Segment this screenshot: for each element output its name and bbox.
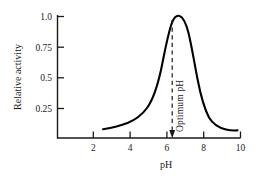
x-tick-label-4: 4 <box>128 143 133 153</box>
relative-activity-vs-ph-chart: 1.0 0.75 0.5 0.25 2 4 6 8 10 pH Relative… <box>0 0 264 178</box>
x-tick-label-10: 10 <box>236 143 246 153</box>
x-tick-label-2: 2 <box>91 143 96 153</box>
x-tick-label-6: 6 <box>165 143 170 153</box>
y-tick-label-1: 1.0 <box>40 12 52 22</box>
y-tick-label-025: 0.25 <box>35 104 52 114</box>
y-tick-label-075: 0.75 <box>35 43 52 53</box>
x-axis-title: pH <box>160 159 172 170</box>
optimum-ph-annotation-label: Optimum pH <box>175 80 185 132</box>
chart-figure: 1.0 0.75 0.5 0.25 2 4 6 8 10 pH Relative… <box>0 0 264 178</box>
x-tick-label-8: 8 <box>201 143 206 153</box>
y-tick-label-05: 0.5 <box>40 73 52 83</box>
y-axis-title: Relative activity <box>12 44 23 110</box>
